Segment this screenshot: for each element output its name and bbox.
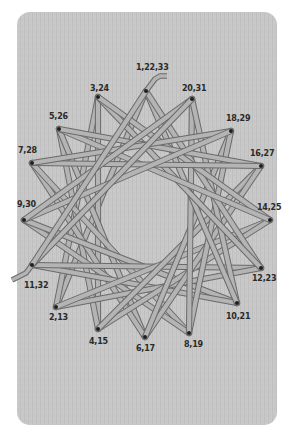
pin-label: 14,25 (257, 203, 282, 212)
string-art-figure: 1,22,3320,3118,2916,2714,2512,2310,218,1… (0, 0, 292, 433)
pin-label: 11,32 (24, 281, 48, 290)
pin-label: 10,21 (226, 312, 251, 321)
pin-label: 16,27 (250, 149, 274, 158)
pin-p2 (229, 129, 233, 133)
pin-p1 (190, 97, 194, 101)
pin-p10 (54, 305, 58, 309)
pin-label: 18,29 (226, 114, 251, 123)
pin-p9 (96, 327, 100, 331)
pin-label: 9,30 (17, 200, 37, 209)
pin-p11 (30, 263, 34, 267)
pin-p12 (22, 218, 26, 222)
pin-label: 7,28 (18, 146, 38, 155)
pin-label: 6,17 (136, 344, 155, 353)
pin-label: 5,26 (49, 112, 69, 121)
pin-label: 1,22,33 (136, 63, 169, 72)
pin-label: 8,19 (184, 340, 204, 349)
pin-label: 3,24 (90, 84, 110, 93)
string-segment (189, 99, 192, 333)
pin-label: 20,31 (182, 84, 207, 93)
pin-p14 (57, 127, 61, 131)
pin-label: 4,15 (89, 337, 109, 346)
pin-p7 (187, 331, 191, 335)
pin-p4 (268, 218, 272, 222)
pin-p6 (235, 301, 239, 305)
wooden-board (17, 12, 277, 425)
pin-p0 (144, 89, 148, 93)
pin-label: 2,13 (49, 313, 68, 322)
pin-label: 12,23 (252, 274, 276, 283)
pin-p8 (143, 335, 147, 339)
pin-p3 (259, 164, 263, 168)
pin-p5 (259, 266, 263, 270)
pin-p13 (30, 161, 34, 165)
pin-p15 (96, 95, 100, 99)
